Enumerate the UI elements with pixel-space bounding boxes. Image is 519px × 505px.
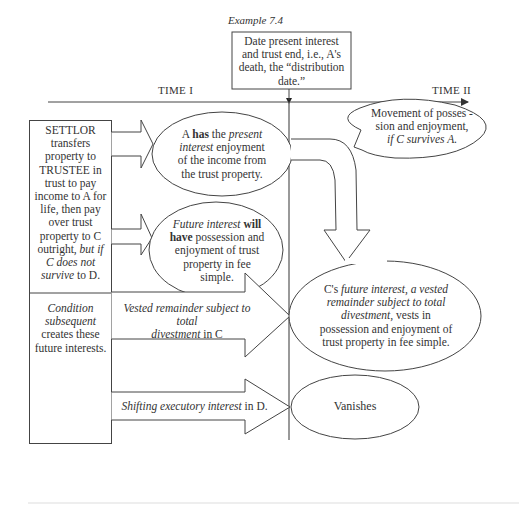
distribution-line-4: date.” (232, 75, 351, 88)
movement-line: if C survives A. (362, 133, 482, 146)
vested-remainder-text: Vested remainder subject to total divest… (112, 302, 262, 342)
vanishes-label: Vanishes (291, 400, 419, 413)
settlor-text-italic: survive (41, 269, 74, 281)
condition-line: Condition (29, 302, 112, 315)
present-bold: has (192, 128, 209, 140)
settlor-line: C does not (29, 256, 112, 269)
present-italic: interest (179, 141, 213, 153)
time-one-label: TIME I (158, 84, 193, 97)
present-italic: present (229, 128, 262, 140)
future-line: property in fee (154, 258, 280, 271)
present-line: the trust property. (157, 168, 287, 181)
settlor-line: property to C (29, 230, 112, 243)
settlor-line: outright, but if (29, 243, 112, 256)
settlor-line: income to A for (29, 190, 112, 203)
condition-line: subsequent (29, 315, 112, 328)
c-line: trust property in fee simple. (300, 336, 472, 349)
settlor-line: life, then pay (29, 203, 112, 216)
settlor-text: SETTLOR transfers property to TRUSTEE in… (29, 124, 112, 282)
c-line: remainder subject to total (300, 296, 472, 309)
arrow-to-present-interest (112, 120, 154, 168)
distribution-date-text: Date present interest and trust end, i.e… (232, 35, 351, 88)
vested-italic: divestment (151, 328, 200, 340)
movement-text: Movement of posses - sion and enjoyment,… (362, 107, 482, 147)
future-bold: have (170, 231, 193, 243)
vested-span: in C (200, 328, 222, 340)
shifting-span: in D. (242, 400, 268, 412)
movement-line: sion and enjoyment, (362, 120, 482, 133)
condition-text: Condition subsequent creates these futur… (29, 302, 112, 355)
c-italic: future interest, a vested (341, 283, 448, 295)
example-caption: Example 7.4 (228, 14, 283, 27)
settlor-line: over trust (29, 216, 112, 229)
present-span: A (182, 128, 193, 140)
settlor-line: SETTLOR (29, 124, 112, 137)
movement-curved-arrow (291, 139, 370, 262)
future-line: Future interest will (154, 218, 280, 231)
future-italic: Future interest (173, 218, 241, 230)
condition-line: creates these (29, 328, 112, 341)
settlor-line: transfers (29, 137, 112, 150)
distribution-line-1: Date present interest (232, 35, 351, 48)
present-line: interest enjoyment (157, 141, 287, 154)
distribution-line-2: and trust end, i.e., A's (232, 48, 351, 61)
vested-line: divestment in C (112, 328, 262, 341)
settlor-text-span: outright, (37, 243, 79, 255)
future-line: simple. (154, 271, 280, 284)
c-future-interest-text: C's future interest, a vested remainder … (300, 283, 472, 349)
settlor-line: property to (29, 150, 112, 163)
c-line: divestment, vests in (300, 309, 472, 322)
present-line: of the income from (157, 154, 287, 167)
present-span: enjoyment (213, 141, 264, 153)
settlor-text-italic: but if (80, 243, 104, 255)
settlor-line: survive to D. (29, 269, 112, 282)
settlor-line: TRUSTEE in (29, 164, 112, 177)
c-span: C's (324, 283, 341, 295)
c-line: possession and enjoyment of (300, 323, 472, 336)
settlor-line: trust to pay (29, 177, 112, 190)
c-italic: divestment, (341, 309, 393, 321)
settlor-text-span: to D. (74, 269, 100, 281)
future-bold: will (241, 218, 262, 230)
future-line: enjoyment of trust (154, 244, 280, 257)
present-interest-text: A has the present interest enjoyment of … (157, 128, 287, 181)
shifting-executory-text: Shifting executory interest in D. (112, 400, 277, 413)
shifting-italic: Shifting executory interest (121, 400, 241, 412)
distribution-line-3: death, the “distribution (232, 61, 351, 74)
present-span: the (209, 128, 229, 140)
c-span: vests in (393, 309, 431, 321)
movement-line: Movement of posses - (362, 107, 482, 120)
time-two-label: TIME II (432, 84, 471, 97)
future-line: have possession and (154, 231, 280, 244)
condition-line: future interests. (29, 342, 112, 355)
c-line: C's future interest, a vested (300, 283, 472, 296)
future-interest-text: Future interest will have possession and… (154, 218, 280, 284)
present-line: A has the present (157, 128, 287, 141)
arrow-to-future-interest (112, 214, 153, 255)
future-span: possession and (193, 231, 265, 243)
vested-line: Vested remainder subject to total (112, 302, 262, 328)
